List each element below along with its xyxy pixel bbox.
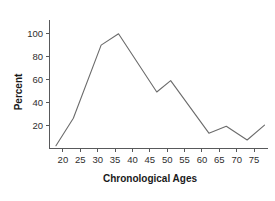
x-tick-label: 75 — [249, 154, 260, 165]
y-tick-label: 20 — [32, 120, 43, 131]
x-tick-label: 25 — [75, 154, 86, 165]
x-tick-label: 40 — [127, 154, 138, 165]
x-tick-label: 70 — [231, 154, 242, 165]
y-axis: 20406080100 — [27, 20, 49, 148]
x-axis: 202530354045505560657075 — [49, 148, 268, 165]
x-axis-title: Chronological Ages — [103, 173, 198, 184]
x-tick-label: 20 — [58, 154, 69, 165]
x-tick-label: 65 — [214, 154, 225, 165]
x-tick-label: 45 — [145, 154, 156, 165]
line-chart: 20406080100 202530354045505560657075 Per… — [0, 0, 275, 201]
y-tick-label: 40 — [32, 97, 43, 108]
y-axis-title: Percent — [13, 73, 24, 110]
x-tick-label: 35 — [110, 154, 121, 165]
x-tick-label: 50 — [162, 154, 173, 165]
chart-container: 20406080100 202530354045505560657075 Per… — [0, 0, 275, 201]
y-tick-label: 60 — [32, 74, 43, 85]
y-tick-label: 80 — [32, 51, 43, 62]
x-tick-label: 60 — [197, 154, 208, 165]
y-tick-label: 100 — [27, 28, 43, 39]
x-tick-label: 30 — [92, 154, 103, 165]
x-tick-label: 55 — [179, 154, 190, 165]
percent-line — [56, 34, 265, 146]
data-series — [56, 34, 265, 146]
